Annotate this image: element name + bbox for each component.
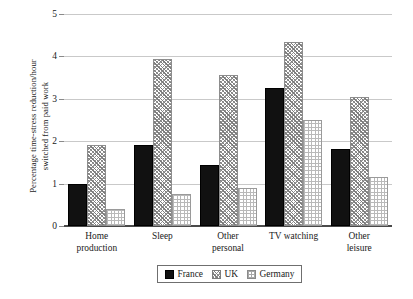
y-axis-title-line-1: Percentage time-stress reduction/hour [28,19,40,234]
bar-group [331,14,388,226]
y-axis-tick [59,226,64,227]
legend-swatch-germany [247,270,256,279]
y-axis-title: Percentage time-stress reduction/hour sw… [28,19,64,234]
bar-uk-0 [87,145,106,226]
legend-swatch-france [165,270,174,279]
y-axis-tick [59,99,64,100]
legend-label: UK [225,269,239,279]
y-axis-tick [59,56,64,57]
x-axis-category-label-line: leisure [326,242,392,254]
x-axis-category-label-line: Other [326,230,392,242]
chart-legend: FranceUKGermany [157,265,302,283]
x-axis-category-label-line: TV watching [261,230,327,242]
y-axis-tick [59,184,64,185]
y-axis-tick-label: 1 [52,179,57,189]
bar-germany-1 [172,194,191,226]
y-axis-tick-label: 0 [52,221,57,231]
x-axis-category-label-line: Sleep [130,230,196,242]
y-axis-tick-label: 5 [52,9,57,19]
x-axis-category-label: Sleep [130,230,196,242]
y-axis-tick-label: 2 [52,136,57,146]
legend-swatch-uk [212,270,221,279]
bar-group [200,14,257,226]
x-axis-category-label: Otherleisure [326,230,392,254]
legend-item-germany: Germany [247,269,294,279]
x-axis-category-label-line: personal [195,242,261,254]
bar-group [265,14,322,226]
bar-germany-2 [238,188,257,226]
bar-france-3 [265,88,284,226]
y-axis-tick-label: 4 [52,51,57,61]
bar-germany-0 [106,209,125,226]
x-axis-category-label-line: Home [64,230,130,242]
legend-label: Germany [260,269,295,279]
bar-france-1 [134,145,153,226]
bar-france-4 [331,149,350,226]
bar-uk-1 [153,59,172,226]
y-axis-tick [59,141,64,142]
bar-uk-3 [284,42,303,226]
bar-chart: Percentage time-stress reduction/hour sw… [0,0,413,299]
legend-item-uk: UK [212,269,238,279]
bar-germany-4 [369,177,388,226]
x-axis-category-label: TV watching [261,230,327,242]
bar-germany-3 [303,120,322,226]
bar-uk-4 [350,97,369,226]
plot-area: 012345 [64,14,392,226]
x-axis-category-label: Homeproduction [64,230,130,254]
bar-group [68,14,125,226]
bar-france-2 [200,165,219,226]
bar-uk-2 [219,75,238,226]
bar-france-0 [68,184,87,226]
x-axis-category-label-line: Other [195,230,261,242]
y-axis-tick [59,14,64,15]
x-axis-category-label: Otherpersonal [195,230,261,254]
y-axis-title-line-2: switched from paid work [39,19,51,234]
y-axis-tick-label: 3 [52,94,57,104]
x-axis-category-label-line: production [64,242,130,254]
legend-item-france: France [165,269,203,279]
bar-group [134,14,191,226]
legend-label: France [178,269,204,279]
